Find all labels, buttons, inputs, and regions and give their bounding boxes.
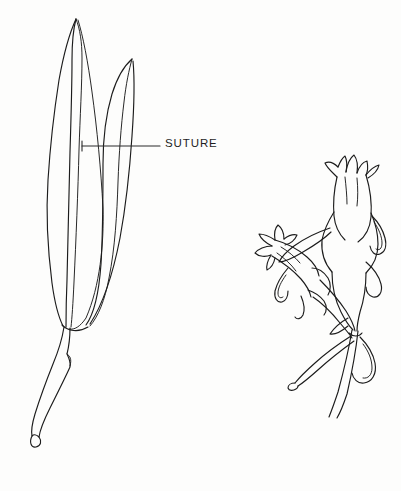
lower-flower-lobe-left (255, 246, 272, 256)
upper-flower-throat-line-2 (357, 178, 358, 206)
lower-right-leaf (352, 337, 375, 383)
seed-pod-group (31, 19, 160, 447)
right-hook-leaf (366, 262, 382, 297)
lower-flower-bract-inner (278, 275, 286, 298)
main-stem-right-edge (337, 331, 358, 418)
upper-flower-tube-left (334, 177, 345, 240)
flowering-stem-group (255, 155, 386, 418)
lower-flower-bract (275, 268, 288, 302)
pod-stalk-left-edge (32, 327, 64, 436)
lower-flower-curl (295, 296, 304, 319)
upper-flower-lobe-center (346, 155, 357, 173)
upper-flower-throat-line-1 (345, 177, 347, 204)
lower-flower-lobe-upper-left (259, 234, 275, 246)
upper-flower-lobe-right-inner (357, 161, 368, 175)
upper-flower-calyx-left (322, 212, 334, 272)
upper-flower-tube-right (358, 175, 371, 242)
lower-flower-lobe-top (275, 225, 284, 240)
upper-flower-lobe-left-inner (338, 156, 347, 172)
pod-tip-right-inner (71, 19, 82, 327)
pod-stalk-cut-tip (31, 435, 41, 447)
upper-flower-lobe-left (325, 162, 338, 177)
lower-left-leaf-tip-curl (288, 383, 298, 390)
pod-suture-line-inner (70, 20, 103, 329)
lower-right-leaf-inner (363, 344, 372, 378)
lower-flower-pedicel-lower (313, 297, 352, 338)
upper-flower-ovary-right (357, 273, 366, 331)
lower-flower-calyx-lower (308, 290, 326, 315)
illustration-canvas (0, 0, 401, 491)
suture-label: SUTURE (165, 137, 218, 149)
pod-stalk-right-edge (39, 328, 70, 437)
botanical-figure: SUTURE (0, 0, 401, 491)
